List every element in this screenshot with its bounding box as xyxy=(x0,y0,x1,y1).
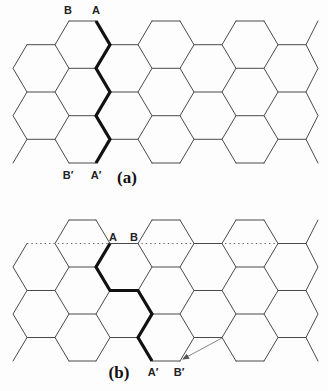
lattice-zigzag xyxy=(180,21,194,163)
lattice-zigzag xyxy=(180,220,194,361)
lattice-zigzag xyxy=(138,21,152,163)
arrow-icon xyxy=(183,338,222,359)
label-b-bottom-right: B′ xyxy=(174,366,185,378)
panel-a-caption: (a) xyxy=(117,168,137,187)
lattice-zigzag xyxy=(222,220,236,361)
panel-b-lattice xyxy=(13,220,318,361)
lattice-zigzag xyxy=(306,220,318,361)
label-b-bottom-left: A′ xyxy=(148,366,159,378)
lattice-zigzag xyxy=(306,21,318,163)
lattice-zigzag xyxy=(55,220,69,361)
cut-path xyxy=(96,21,110,163)
lattice-zigzag xyxy=(264,21,278,163)
cut-path xyxy=(96,244,152,362)
panel-a: B A B′ A′ (a) xyxy=(13,4,318,187)
lattice-zigzag xyxy=(13,244,27,362)
panel-b-caption: (b) xyxy=(109,363,130,382)
label-b-top-left: A xyxy=(109,231,117,243)
panel-a-lattice xyxy=(13,21,318,163)
lattice-zigzag xyxy=(96,220,110,361)
label-a-top-left: B xyxy=(64,4,72,16)
lattice-zigzag xyxy=(55,21,69,163)
lattice-zigzag xyxy=(264,220,278,361)
panel-b: A B A′ B′ (b) xyxy=(13,220,318,382)
label-b-top-right: B xyxy=(130,231,138,243)
label-a-bottom-left: B′ xyxy=(63,169,74,181)
honeycomb-figure: B A B′ A′ (a) A B A′ B′ (b) xyxy=(0,0,328,391)
lattice-zigzag xyxy=(13,45,27,163)
label-a-bottom-right: A′ xyxy=(91,169,102,181)
lattice-zigzag xyxy=(222,21,236,163)
label-a-top-right: A xyxy=(92,4,100,16)
